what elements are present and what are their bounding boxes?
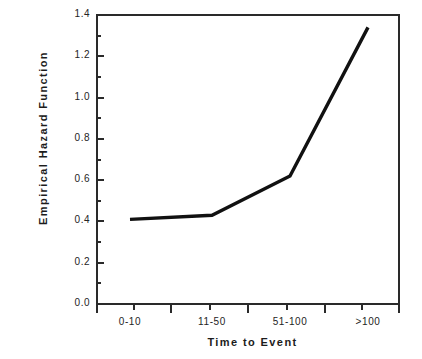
x-tick-minor — [209, 305, 211, 310]
y-tick-major — [96, 138, 104, 140]
y-tick-major — [96, 97, 104, 99]
y-tick-major — [96, 179, 104, 181]
x-tick-label: 0-10 — [85, 316, 175, 327]
y-tick-label: 0.2 — [50, 256, 90, 267]
plot-area — [96, 14, 400, 305]
x-tick-label: 51-100 — [245, 316, 335, 327]
x-tick-minor — [133, 305, 135, 310]
y-tick-major — [96, 262, 104, 264]
y-tick-minor — [96, 200, 101, 202]
x-tick-label: 11-50 — [167, 316, 257, 327]
x-tick-major — [170, 305, 172, 313]
x-tick-major — [247, 305, 249, 313]
x-tick-major — [324, 305, 326, 313]
x-tick-major — [398, 305, 400, 313]
x-axis-title: Time to Event — [100, 336, 405, 348]
x-tick-minor — [286, 305, 288, 310]
x-tick-label: >100 — [323, 316, 413, 327]
y-tick-minor — [96, 76, 101, 78]
y-tick-label: 0.8 — [50, 132, 90, 143]
y-tick-label: 0.4 — [50, 214, 90, 225]
y-tick-label: 1.2 — [50, 49, 90, 60]
y-tick-major — [96, 14, 104, 16]
y-tick-label: 1.0 — [50, 91, 90, 102]
y-tick-minor — [96, 159, 101, 161]
y-tick-label: 1.4 — [50, 8, 90, 19]
y-tick-minor — [96, 241, 101, 243]
y-tick-label: 0.6 — [50, 173, 90, 184]
chart-figure: Empirical Hazard Function 0.00.20.40.60.… — [0, 0, 422, 359]
x-tick-major — [96, 305, 98, 313]
y-tick-minor — [96, 117, 101, 119]
y-tick-label: 0.0 — [50, 297, 90, 308]
y-tick-minor — [96, 282, 101, 284]
y-tick-major — [96, 220, 104, 222]
x-tick-minor — [361, 305, 363, 310]
y-tick-major — [96, 55, 104, 57]
y-tick-minor — [96, 35, 101, 37]
